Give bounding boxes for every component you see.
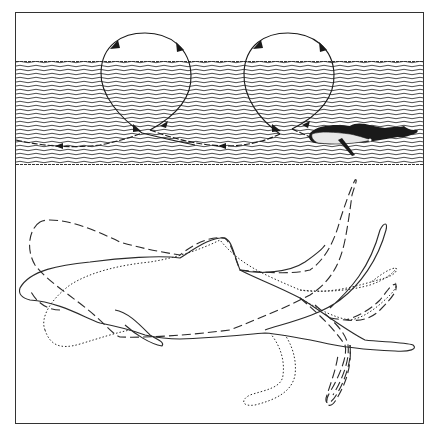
water-band bbox=[16, 61, 423, 165]
figure bbox=[0, 0, 440, 436]
